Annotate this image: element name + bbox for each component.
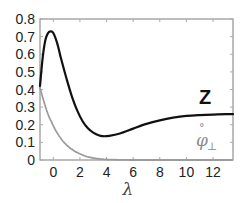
x-tick-label: 12 <box>205 164 221 180</box>
x-tick-label: 2 <box>76 164 84 180</box>
x-tick-label: 4 <box>103 164 111 180</box>
x-tick-label: 8 <box>156 164 164 180</box>
y-tick-label: 0.4 <box>16 82 36 98</box>
series-line-z <box>40 31 233 136</box>
y-tick-label: 0.3 <box>16 99 36 115</box>
y-tick-label: 0.7 <box>16 29 36 45</box>
y-tick-label: 0.5 <box>16 64 36 80</box>
x-axis-title: λ <box>122 179 134 199</box>
y-tick-label: 0.8 <box>16 11 36 27</box>
x-tick-label: 6 <box>129 164 137 180</box>
x-tick-label: 0 <box>49 164 57 180</box>
y-tick-label: 0 <box>27 152 35 168</box>
x-tick-label: 10 <box>179 164 195 180</box>
series-label-z: Z <box>199 86 211 108</box>
series-label-phi-perp: ° φ ⊥ <box>196 122 217 153</box>
x-axis: 024681012 <box>49 19 221 180</box>
perp-subscript: ⊥ <box>207 140 217 153</box>
y-tick-label: 0.6 <box>16 46 36 62</box>
line-chart: 00.10.20.30.40.50.60.70.8 024681012 λ Z … <box>0 0 246 203</box>
y-tick-label: 0.1 <box>16 134 36 150</box>
y-tick-label: 0.2 <box>16 117 36 133</box>
